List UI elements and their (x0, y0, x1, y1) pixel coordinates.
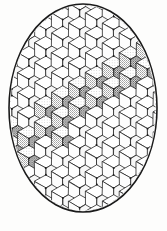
lattice-vertex-dot (45, 147, 47, 149)
lattice-vertex-dot (79, 15, 81, 17)
lattice-vertex-dot (96, 184, 98, 186)
lattice-vertex-dot (130, 118, 132, 120)
lattice-vertex-dot (96, 177, 98, 179)
lattice-vertex-dot (79, 9, 81, 11)
lattice-vertex-dot (28, 137, 30, 139)
lattice-vertex-dot (113, 148, 115, 150)
lattice-vertex-dot (62, 184, 64, 186)
lattice-vertex-dot (113, 88, 115, 90)
lattice-vertex-dot (62, 144, 64, 146)
lattice-vertex-dot (62, 177, 64, 179)
lattice-vertex-dot (45, 167, 47, 169)
lattice-vertex-dot (96, 118, 98, 120)
lattice-vertex-dot (129, 177, 131, 179)
lattice-vertex-dot (45, 108, 47, 110)
lattice-vertex-dot (113, 108, 115, 110)
lattice-vertex-dot (28, 144, 30, 146)
lattice-vertex-dot (96, 138, 98, 140)
lattice-vertex-dot (130, 78, 132, 80)
lattice-vertex-dot (11, 108, 13, 110)
lattice-vertex-dot (28, 118, 30, 120)
lattice-vertex-dot (113, 167, 115, 169)
lattice-vertex-dot (130, 138, 132, 140)
lattice-vertex-dot (129, 144, 131, 146)
lattice-vertex-dot (79, 88, 81, 90)
lattice-vertex-dot (45, 68, 47, 70)
lattice-vertex-dot (79, 207, 81, 209)
lattice-vertex-dot (96, 197, 98, 199)
lattice-vertex-dot (62, 25, 64, 27)
lattice-vertex-dot (28, 105, 30, 107)
rhombille-ellipse-figure (0, 0, 167, 231)
lattice-vertex-dot (62, 65, 64, 67)
lattice-vertex-dot (45, 88, 47, 90)
lattice-vertex-dot (113, 29, 115, 31)
lattice-vertex-dot (147, 108, 149, 110)
lattice-vertex-dot (28, 98, 30, 100)
lattice-vertex-dot (62, 138, 64, 140)
lattice-vertex-dot (130, 105, 132, 107)
lattice-vertex-dot (113, 16, 115, 18)
lattice-vertex-dot (79, 187, 81, 189)
lattice-vertex-dot (96, 19, 98, 21)
lattice-vertex-dot (45, 134, 47, 136)
lattice-vertex-dot (130, 39, 132, 41)
lattice-vertex-dot (45, 95, 47, 97)
lattice-vertex-dot (113, 48, 115, 50)
lattice-vertex-dot (45, 174, 47, 176)
lattice-vertex-dot (79, 127, 81, 129)
lattice-vertex-dot (79, 167, 81, 169)
lattice-vertex-dot (113, 55, 115, 57)
lattice-vertex-dot (62, 78, 64, 80)
lattice-vertex-dot (79, 48, 81, 50)
lattice-vertex-dot (62, 118, 64, 120)
lattice-vertex-dot (62, 157, 64, 159)
lattice-vertex-dot (79, 108, 81, 110)
lattice-vertex-dot (62, 19, 64, 21)
rhombille-tiling-illustration (0, 0, 167, 231)
lattice-vertex-dot (79, 174, 81, 176)
lattice-vertex-dot (28, 157, 30, 159)
lattice-vertex-dot (113, 134, 115, 136)
lattice-vertex-dot (96, 98, 98, 100)
lattice-vertex-dot (113, 174, 115, 176)
lattice-vertex-dot (79, 28, 81, 30)
lattice-vertex-dot (28, 58, 30, 60)
lattice-vertex-dot (113, 128, 115, 130)
lattice-vertex-dot (130, 65, 132, 67)
lattice-vertex-dot (79, 95, 81, 97)
lattice-vertex-dot (45, 29, 47, 31)
lattice-vertex-dot (129, 58, 131, 60)
lattice-vertex-dot (96, 78, 98, 80)
lattice-vertex-dot (62, 105, 64, 107)
lattice-vertex-dot (62, 59, 64, 61)
lattice-vertex-dot (79, 148, 81, 150)
lattice-vertex-dot (79, 68, 81, 70)
lattice-vertex-dot (96, 144, 98, 146)
lattice-vertex-dot (96, 58, 98, 60)
lattice-vertex-dot (11, 95, 13, 97)
lattice-vertex-dot (62, 197, 64, 199)
lattice-vertex-dot (79, 134, 81, 136)
lattice-vertex-dot (129, 98, 131, 100)
lattice-vertex-dot (45, 55, 47, 57)
lattice-vertex-dot (147, 134, 149, 136)
lattice-vertex-dot (79, 55, 81, 57)
lattice-vertex-dot (113, 95, 115, 97)
lattice-vertex-dot (45, 187, 47, 189)
lattice-vertex-dot (113, 187, 115, 189)
lattice-vertex-dot (28, 78, 30, 80)
lattice-vertex-dot (45, 48, 47, 50)
lattice-vertex-dot (96, 105, 98, 107)
lattice-vertex-dot (147, 95, 149, 97)
lattice-vertex-dot (62, 98, 64, 100)
lattice-vertex-dot (147, 148, 149, 150)
lattice-vertex-dot (96, 39, 98, 41)
lattice-vertex-dot (96, 25, 98, 27)
lattice-vertex-dot (146, 88, 148, 90)
lattice-vertex-dot (96, 65, 98, 67)
lattice-vertex-dot (147, 128, 149, 130)
lattice-vertex-dot (45, 128, 47, 130)
lattice-vertex-dot (96, 157, 98, 159)
lattice-vertex-dot (146, 68, 148, 70)
